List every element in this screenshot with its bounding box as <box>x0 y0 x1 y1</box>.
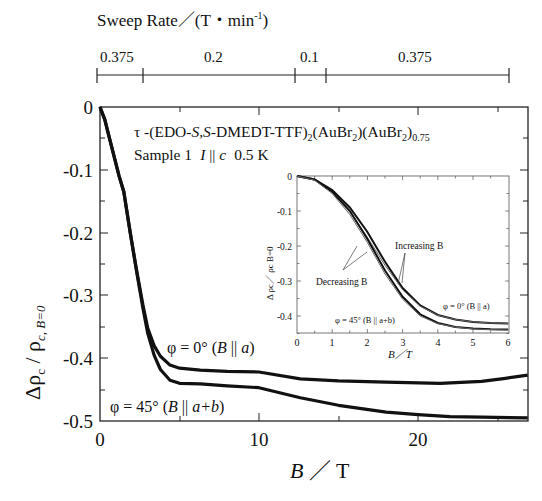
inset-annotation-phi-45: φ = 45° (B || a+b) <box>335 315 395 325</box>
inset-x-tick-3: 3 <box>401 337 406 348</box>
y-tick-4: -0.4 <box>63 348 94 369</box>
inset-x-tick-labels: 0 1 2 3 4 5 6 <box>295 337 511 348</box>
y-tick-labels: 0 -0.1 -0.2 -0.3 -0.4 -0.5 <box>63 97 94 432</box>
annotation-phi-45: φ = 45° (B || a+b) <box>110 398 224 416</box>
inset-x-tick-4: 4 <box>436 337 441 348</box>
inset-y-label: Δ ρc／ ρc B=0 <box>265 246 275 300</box>
inset-y-tick-2: -0.2 <box>277 242 292 252</box>
inset-x-tick-2: 2 <box>365 337 370 348</box>
inset-x-tick-0: 0 <box>295 337 300 348</box>
sweep-seg-4-label: 0.375 <box>398 49 432 65</box>
figure: Sweep Rate／(T・min-1) 0.375 0.2 0.1 0.375 <box>0 0 542 501</box>
x-tick-labels: 0 10 20 <box>95 429 427 450</box>
inset-x-label: B／T <box>388 348 413 360</box>
y-tick-3: -0.3 <box>63 285 93 306</box>
inset-x-tick-1: 1 <box>330 337 335 348</box>
y-tick-1: -0.1 <box>63 160 93 181</box>
inset-annotation-phi-0: φ = 0° (B || a) <box>443 301 490 311</box>
sweep-seg-2-label: 0.2 <box>204 49 223 65</box>
annotation-phi-0: φ = 0° (B || a) <box>167 339 255 357</box>
y-tick-5: -0.5 <box>63 411 93 432</box>
inset-x-tick-5: 5 <box>471 337 476 348</box>
inset-y-tick-0: 0 <box>287 172 292 182</box>
y-tick-0: 0 <box>84 97 94 118</box>
inset-y-tick-labels: 0 -0.1 -0.2 -0.3 -0.4 <box>277 172 292 322</box>
inset-plot: 0 -0.1 -0.2 -0.3 -0.4 0 1 2 3 4 5 6 B／T … <box>265 172 511 360</box>
inset-x-tick-6: 6 <box>506 337 511 348</box>
x-tick-20: 20 <box>409 429 428 450</box>
inset-y-tick-3: -0.3 <box>277 277 292 287</box>
inset-y-tick-1: -0.1 <box>277 207 292 217</box>
x-axis-label: B ／ T <box>290 458 350 483</box>
inset-y-tick-4: -0.4 <box>277 312 292 322</box>
y-axis-label: Δρc / ρc, B=0 <box>20 305 48 400</box>
inset-annotation-decreasing: Decreasing B <box>316 277 367 287</box>
y-tick-2: -0.2 <box>63 223 93 244</box>
sample-condition-label: Sample 1I || c0.5 K <box>134 146 269 163</box>
x-tick-0: 0 <box>95 429 105 450</box>
sweep-rate-title: Sweep Rate／(T・min-1) <box>97 10 268 30</box>
sweep-seg-3-label: 0.1 <box>300 49 319 65</box>
sweep-rate-bar <box>97 68 509 83</box>
sweep-seg-1-label: 0.375 <box>100 49 134 65</box>
inset-annotation-increasing: Increasing B <box>395 241 443 251</box>
x-tick-10: 10 <box>250 429 269 450</box>
compound-title: τ -(EDO-S,S-DMEDT-TTF)2(AuBr2)(AuBr2)0.7… <box>134 123 430 143</box>
